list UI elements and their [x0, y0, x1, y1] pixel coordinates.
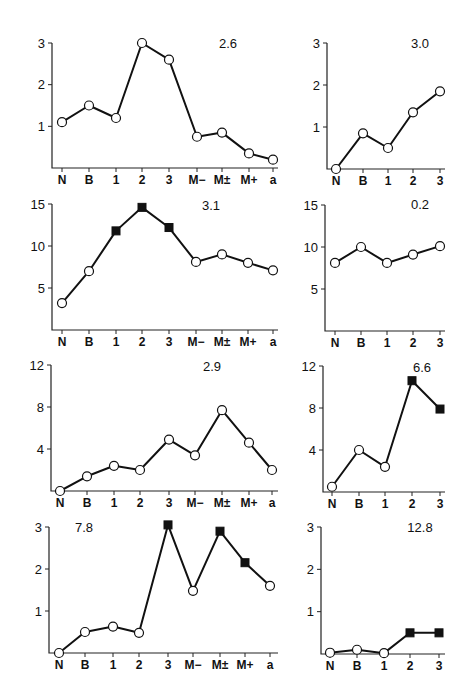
- open-circle-marker: [381, 462, 390, 471]
- open-circle-marker: [81, 628, 90, 637]
- x-tick-label: a: [270, 173, 277, 187]
- open-circle-marker: [326, 648, 335, 657]
- x-tick-label: 3: [166, 173, 173, 187]
- x-tick-label: 2: [139, 173, 146, 187]
- x-tick-label: M±: [214, 496, 231, 510]
- chart-panel-row1-right: 123NB1233.0: [313, 36, 445, 189]
- panel-annotation: 2.6: [219, 36, 237, 51]
- filled-square-marker: [165, 224, 173, 232]
- y-tick-label: 12: [302, 359, 316, 374]
- x-tick-label: 1: [113, 335, 120, 349]
- filled-square-marker: [406, 629, 414, 637]
- y-tick-label: 3: [313, 36, 320, 51]
- open-circle-marker: [112, 114, 121, 123]
- x-tick-label: N: [58, 335, 67, 349]
- x-tick-label: B: [85, 335, 94, 349]
- x-tick-label: N: [332, 174, 341, 188]
- x-tick-label: 3: [437, 497, 444, 511]
- y-tick-label: 10: [304, 240, 318, 255]
- y-tick-label: 2: [307, 562, 314, 577]
- x-tick-label: 3: [165, 658, 172, 672]
- open-circle-marker: [268, 466, 277, 475]
- y-tick-label: 1: [38, 119, 45, 134]
- x-tick-label: M±: [214, 173, 231, 187]
- open-circle-marker: [218, 250, 227, 259]
- open-circle-marker: [328, 482, 337, 491]
- chart-panel-row2-right: 51015NB1230.2: [304, 197, 445, 350]
- filled-square-marker: [138, 203, 146, 211]
- x-tick-label: M+: [240, 496, 257, 510]
- axes: [325, 205, 445, 331]
- x-tick-label: 2: [409, 497, 416, 511]
- open-circle-marker: [245, 149, 254, 158]
- y-tick-label: 8: [37, 400, 44, 415]
- x-tick-label: 3: [436, 659, 443, 673]
- axes: [321, 527, 445, 654]
- y-tick-label: 1: [35, 604, 42, 619]
- open-circle-marker: [409, 250, 418, 259]
- open-circle-marker: [165, 55, 174, 64]
- open-circle-marker: [383, 258, 392, 267]
- y-tick-label: 3: [307, 520, 314, 535]
- x-tick-label: B: [83, 496, 92, 510]
- x-tick-label: M+: [236, 658, 253, 672]
- x-tick-label: 2: [137, 496, 144, 510]
- x-tick-label: 3: [437, 336, 444, 350]
- open-circle-marker: [332, 165, 341, 174]
- chart-panel-row1-left: 123NB123M−M±M+a2.6: [38, 36, 278, 188]
- panel-annotation: 6.6: [413, 360, 431, 375]
- y-tick-label: 3: [38, 36, 45, 51]
- x-tick-label: 1: [113, 173, 120, 187]
- open-circle-marker: [245, 438, 254, 447]
- open-circle-marker: [244, 258, 253, 267]
- y-tick-label: 10: [31, 239, 45, 254]
- x-tick-label: B: [359, 174, 368, 188]
- open-circle-marker: [55, 649, 64, 658]
- y-tick-label: 3: [35, 520, 42, 535]
- open-circle-marker: [353, 645, 362, 654]
- axes: [52, 204, 278, 330]
- x-tick-label: 2: [407, 659, 414, 673]
- x-tick-label: M−: [188, 173, 205, 187]
- x-tick-label: B: [357, 336, 366, 350]
- x-tick-label: a: [267, 658, 274, 672]
- x-tick-label: N: [326, 659, 335, 673]
- open-circle-marker: [269, 266, 278, 275]
- y-tick-label: 5: [38, 281, 45, 296]
- x-tick-label: 3: [166, 496, 173, 510]
- open-circle-marker: [85, 101, 94, 110]
- x-tick-label: 1: [385, 174, 392, 188]
- panel-annotation: 2.9: [203, 359, 221, 374]
- x-tick-label: B: [355, 497, 364, 511]
- open-circle-marker: [135, 628, 144, 637]
- x-tick-label: N: [55, 658, 64, 672]
- x-tick-label: M−: [184, 658, 201, 672]
- x-tick-label: B: [85, 173, 94, 187]
- panel-annotation: 12.8: [407, 520, 432, 535]
- chart-panel-row3-left: 4812NB123M−M±M+a2.9: [30, 358, 278, 511]
- open-circle-marker: [56, 487, 65, 496]
- y-tick-label: 2: [313, 78, 320, 93]
- open-circle-marker: [58, 118, 67, 127]
- chart-panel-row4-left: 123NB123M−M±M+a7.8: [35, 520, 278, 673]
- open-circle-marker: [109, 622, 118, 631]
- x-tick-label: N: [58, 173, 67, 187]
- open-circle-marker: [436, 242, 445, 251]
- x-tick-label: a: [269, 496, 276, 510]
- filled-square-marker: [435, 629, 443, 637]
- open-circle-marker: [357, 243, 366, 252]
- y-tick-label: 8: [309, 401, 316, 416]
- open-circle-marker: [380, 649, 389, 658]
- panel-annotation: 0.2: [411, 197, 429, 212]
- open-circle-marker: [218, 128, 227, 137]
- y-tick-label: 4: [37, 442, 44, 457]
- open-circle-marker: [138, 39, 147, 48]
- filled-square-marker: [112, 227, 120, 235]
- panel-annotation: 3.1: [202, 198, 220, 213]
- filled-square-marker: [436, 405, 444, 413]
- y-tick-label: 1: [307, 604, 314, 619]
- x-tick-label: M+: [239, 335, 256, 349]
- x-tick-label: M+: [240, 173, 257, 187]
- open-circle-marker: [218, 406, 227, 415]
- y-tick-label: 2: [35, 562, 42, 577]
